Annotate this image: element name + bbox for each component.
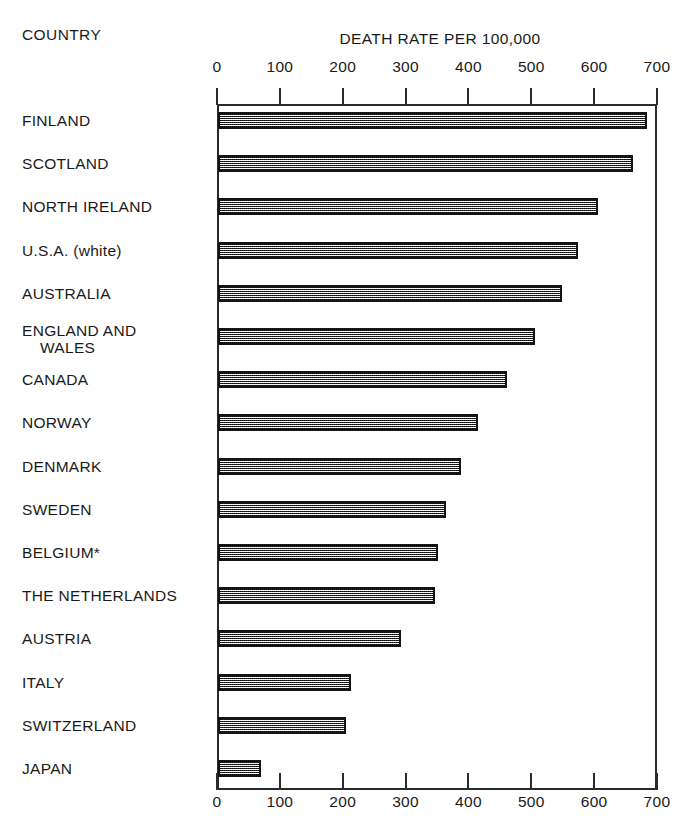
row-label-u-s-a-white: U.S.A. (white) <box>22 242 212 259</box>
bar-sweden <box>218 501 446 518</box>
bottom-axis-tick-100 <box>279 773 281 790</box>
top-axis-tick-400 <box>467 88 469 105</box>
top-tick-label-600: 600 <box>581 58 608 76</box>
bar-norway <box>218 414 478 431</box>
top-axis-tick-300 <box>405 88 407 105</box>
row-label-sweden: SWEDEN <box>22 501 212 518</box>
bottom-axis <box>217 768 657 790</box>
bar-italy <box>218 674 351 691</box>
bar-scotland <box>218 155 633 172</box>
row-label-denmark: DENMARK <box>22 458 212 475</box>
top-axis-tick-100 <box>279 88 281 105</box>
bottom-axis-tick-400 <box>467 773 469 790</box>
bar-austria <box>218 630 401 647</box>
top-tick-label-100: 100 <box>266 58 293 76</box>
top-tick-label-0: 0 <box>213 58 222 76</box>
chart-row: DENMARK <box>0 458 690 501</box>
top-axis-tick-500 <box>530 88 532 105</box>
bottom-axis-tick-600 <box>593 773 595 790</box>
bottom-axis-tick-700 <box>656 773 658 790</box>
top-axis-tick-200 <box>342 88 344 105</box>
top-axis-tick-0 <box>216 88 218 105</box>
bottom-tick-label-200: 200 <box>329 793 356 811</box>
chart-row: NORWAY <box>0 414 690 457</box>
row-label-line: WALES <box>22 339 212 356</box>
chart-row: NORTH IRELAND <box>0 198 690 241</box>
bottom-axis-tick-500 <box>530 773 532 790</box>
bottom-tick-label-0: 0 <box>213 793 222 811</box>
chart-row: U.S.A. (white) <box>0 242 690 285</box>
bottom-tick-label-400: 400 <box>455 793 482 811</box>
bar-north-ireland <box>218 198 598 215</box>
top-tick-label-500: 500 <box>518 58 545 76</box>
row-label-finland: FINLAND <box>22 112 212 129</box>
chart-row: BELGIUM* <box>0 544 690 587</box>
row-label-the-netherlands: THE NETHERLANDS <box>22 587 212 604</box>
top-tick-label-300: 300 <box>392 58 419 76</box>
bottom-tick-label-500: 500 <box>518 793 545 811</box>
row-label-austria: AUSTRIA <box>22 630 212 647</box>
chart-row: ITALY <box>0 674 690 717</box>
bar-u-s-a-white <box>218 242 578 259</box>
chart-row: CANADA <box>0 371 690 414</box>
chart-title: DEATH RATE PER 100,000 <box>222 30 658 48</box>
top-tick-label-400: 400 <box>455 58 482 76</box>
bar-canada <box>218 371 507 388</box>
chart-row: SWITZERLAND <box>0 717 690 760</box>
row-label-north-ireland: NORTH IRELAND <box>22 198 212 215</box>
country-column-header: COUNTRY <box>22 26 101 44</box>
bottom-axis-tick-labels: 0100200300400500600700 <box>0 793 690 817</box>
bar-switzerland <box>218 717 346 734</box>
bottom-tick-label-100: 100 <box>266 793 293 811</box>
chart-row: AUSTRIA <box>0 630 690 673</box>
bar-finland <box>218 112 647 129</box>
bar-australia <box>218 285 562 302</box>
chart-row: ENGLAND ANDWALES <box>0 328 690 371</box>
bottom-tick-label-300: 300 <box>392 793 419 811</box>
row-label-belgium: BELGIUM* <box>22 544 212 561</box>
bottom-tick-label-600: 600 <box>581 793 608 811</box>
bottom-axis-tick-0 <box>216 773 218 790</box>
top-axis-tick-700 <box>656 88 658 105</box>
top-tick-label-200: 200 <box>329 58 356 76</box>
row-label-australia: AUSTRALIA <box>22 285 212 302</box>
bar-denmark <box>218 458 461 475</box>
row-label-norway: NORWAY <box>22 414 212 431</box>
chart-row: FINLAND <box>0 112 690 155</box>
chart-row: THE NETHERLANDS <box>0 587 690 630</box>
top-axis-tick-labels: 0100200300400500600700 <box>0 58 690 82</box>
bottom-axis-tick-300 <box>405 773 407 790</box>
bar-england-and-wales <box>218 328 535 345</box>
chart-row: SCOTLAND <box>0 155 690 198</box>
row-label-line: ENGLAND AND <box>22 322 212 339</box>
bar-belgium <box>218 544 438 561</box>
row-label-canada: CANADA <box>22 371 212 388</box>
top-tick-label-700: 700 <box>644 58 671 76</box>
row-label-japan: JAPAN <box>22 760 212 777</box>
row-label-switzerland: SWITZERLAND <box>22 717 212 734</box>
top-axis <box>217 84 657 106</box>
row-label-scotland: SCOTLAND <box>22 155 212 172</box>
row-label-england-and-wales: ENGLAND ANDWALES <box>22 322 212 356</box>
bar-the-netherlands <box>218 587 435 604</box>
bottom-tick-label-700: 700 <box>644 793 671 811</box>
top-axis-tick-600 <box>593 88 595 105</box>
bottom-axis-tick-200 <box>342 773 344 790</box>
row-label-italy: ITALY <box>22 674 212 691</box>
chart-row: SWEDEN <box>0 501 690 544</box>
